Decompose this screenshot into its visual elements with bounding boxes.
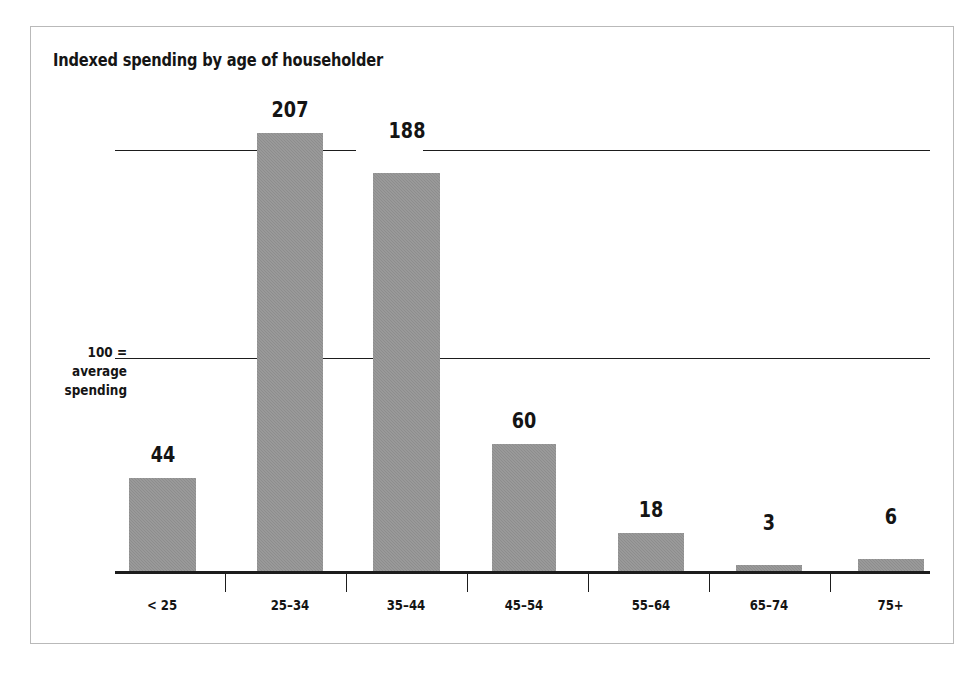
bar-value-lt-25: 44 — [148, 445, 177, 466]
bar-45-54[interactable] — [492, 444, 556, 571]
bar-value-65-74: 3 — [762, 513, 777, 534]
bar-value-75-plus: 6 — [884, 507, 899, 528]
chart-title: Indexed spending by age of householder — [53, 50, 383, 70]
bar-35-44[interactable] — [373, 173, 440, 571]
bar-value-35-44: 188 — [385, 121, 429, 142]
axis-tick-3 — [467, 574, 468, 592]
bar-lt-25[interactable] — [129, 478, 196, 571]
axis-tick-1 — [225, 574, 226, 592]
bar-group-4: 18 — [618, 95, 684, 571]
bar-value-25-34: 207 — [268, 100, 312, 121]
axis-annotation-line-3: spending — [32, 381, 127, 400]
x-axis-baseline — [115, 571, 930, 574]
x-axis-label-25-34: 25–34 — [247, 597, 333, 613]
bar-75-plus[interactable] — [858, 559, 924, 571]
bar-group-1: 207 — [257, 95, 323, 571]
bar-group-6: 6 — [858, 95, 924, 571]
axis-tick-5 — [709, 574, 710, 592]
bar-25-34[interactable] — [257, 133, 323, 571]
plot-area: 44 207 188 60 18 3 6 — [115, 95, 930, 571]
bar-group-0: 44 — [129, 95, 196, 571]
x-axis-label-65-74: 65–74 — [726, 597, 812, 613]
bar-group-2: 188 — [373, 95, 440, 571]
axis-tick-2 — [346, 574, 347, 592]
bar-group-3: 60 — [492, 95, 556, 571]
axis-tick-4 — [588, 574, 589, 592]
axis-annotation-line-1: 100 = — [32, 343, 127, 362]
x-axis-label-75-plus: 75+ — [848, 597, 934, 613]
x-axis-label-lt-25: < 25 — [129, 597, 196, 613]
bar-value-45-54: 60 — [509, 411, 538, 432]
x-axis-label-55-64: 55–64 — [608, 597, 694, 613]
x-axis-label-35-44: 35–44 — [363, 597, 449, 613]
axis-annotation-line-2: average — [32, 362, 127, 381]
axis-annotation-100-average-spending: 100 = average spending — [32, 343, 127, 400]
bar-value-55-64: 18 — [636, 500, 665, 521]
bar-group-5: 3 — [736, 95, 802, 571]
axis-tick-6 — [830, 574, 831, 592]
bar-55-64[interactable] — [618, 533, 684, 571]
x-axis-label-45-54: 45–54 — [481, 597, 567, 613]
chart-figure: Indexed spending by age of householder 1… — [0, 0, 975, 679]
